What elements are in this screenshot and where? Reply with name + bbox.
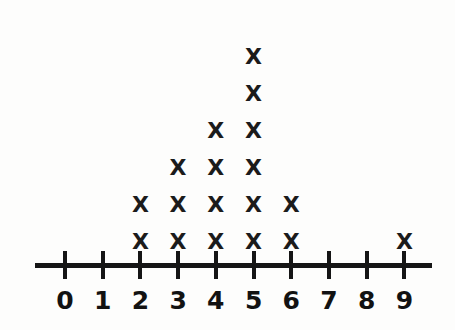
x-stack-4: XXXX	[197, 112, 235, 260]
axis-tick-8	[365, 251, 369, 279]
x-stack-5: XXXXXX	[235, 38, 273, 260]
x-mark: X	[235, 186, 273, 223]
x-mark: X	[235, 149, 273, 186]
x-mark: X	[159, 149, 197, 186]
x-mark: X	[235, 75, 273, 112]
axis-tick-6	[289, 251, 293, 279]
axis-label-6: 6	[272, 286, 310, 316]
axis-tick-2	[138, 251, 142, 279]
axis-label-4: 4	[197, 286, 235, 316]
axis-label-9: 9	[385, 286, 423, 316]
axis-label-2: 2	[121, 286, 159, 316]
axis-label-5: 5	[235, 286, 273, 316]
x-mark: X	[121, 186, 159, 223]
axis-label-3: 3	[159, 286, 197, 316]
axis-line	[35, 263, 432, 268]
axis-label-7: 7	[310, 286, 348, 316]
axis-label-1: 1	[84, 286, 122, 316]
x-stack-2: XX	[121, 186, 159, 260]
x-mark: X	[159, 186, 197, 223]
dot-plot-figure: XX XXX XXXX XXXXXX XX X 0 1 2 3 4 5 6 7 …	[0, 0, 455, 330]
x-mark: X	[235, 38, 273, 75]
x-mark: X	[197, 186, 235, 223]
axis-tick-1	[101, 251, 105, 279]
x-stack-6: XX	[272, 186, 310, 260]
x-mark: X	[272, 186, 310, 223]
axis-tick-4	[214, 251, 218, 279]
x-stack-3: XXX	[159, 149, 197, 260]
axis-label-0: 0	[46, 286, 84, 316]
axis-tick-7	[327, 251, 331, 279]
axis-tick-5	[252, 251, 256, 279]
axis-tick-3	[176, 251, 180, 279]
axis-tick-0	[63, 251, 67, 279]
x-mark: X	[197, 149, 235, 186]
x-mark: X	[235, 112, 273, 149]
axis-label-8: 8	[348, 286, 386, 316]
axis-tick-9	[402, 251, 406, 279]
x-mark: X	[197, 112, 235, 149]
